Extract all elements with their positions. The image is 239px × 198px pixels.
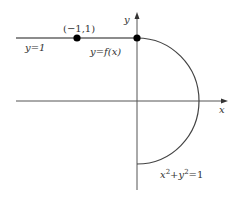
x-axis-arrow-icon	[221, 99, 228, 104]
point-neg1-1	[73, 34, 80, 41]
x-axis	[16, 99, 228, 104]
x-axis-label: x	[219, 104, 225, 115]
label-function: y=f(x)	[89, 46, 121, 57]
label-y-equals-1: y=1	[24, 42, 45, 53]
label-circle-equation: x2+y2=1	[160, 168, 203, 180]
y-axis-label: y	[123, 14, 130, 25]
point-label-neg1-1: (−1,1)	[63, 23, 95, 34]
y-axis-arrow-icon	[135, 12, 140, 19]
point-0-1	[133, 34, 140, 41]
diagram-canvas: y x (−1,1) y=1 y=f(x) x2+y2=1	[0, 0, 239, 198]
